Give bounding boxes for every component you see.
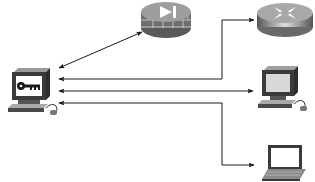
desktop-computer-icon: [258, 66, 310, 112]
laptop: [260, 145, 308, 181]
network-diagram: [0, 0, 315, 182]
laptop-icon: [260, 145, 308, 181]
router: [256, 0, 314, 40]
firewall: [140, 0, 192, 40]
firewall-icon: [140, 0, 192, 40]
desktop-pc: [258, 66, 310, 112]
router-icon: [256, 0, 314, 40]
link-workstation-laptop: [59, 103, 254, 165]
link-workstation-firewall: [59, 32, 142, 68]
workstation-with-key-icon: [6, 68, 58, 118]
key-workstation: [6, 68, 58, 118]
